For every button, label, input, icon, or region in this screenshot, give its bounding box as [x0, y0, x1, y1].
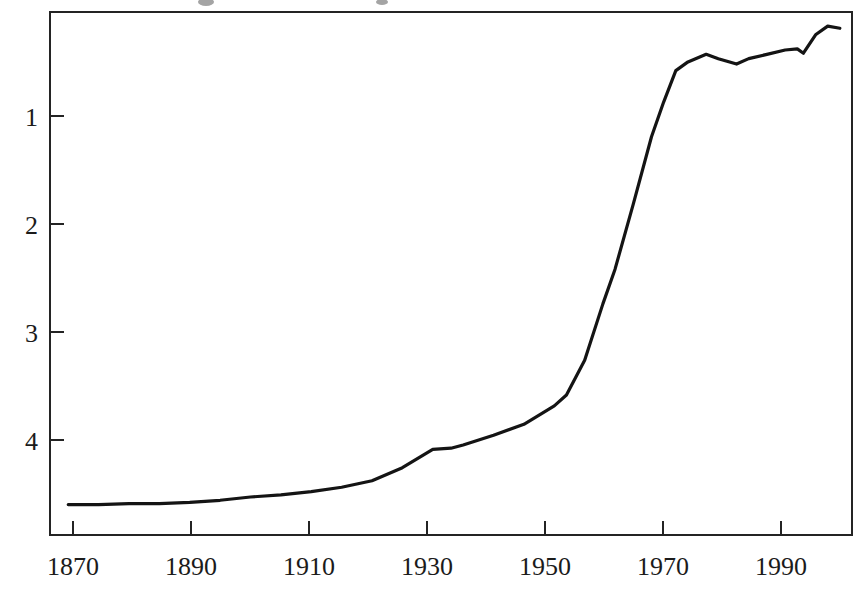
y-axis-tick-labels: 1 2 3 4 [25, 103, 38, 456]
plot-frame [50, 12, 852, 535]
cropped-text-fragment-top [198, 0, 388, 6]
x-tick-label: 1910 [283, 552, 335, 581]
x-tick-label: 1930 [401, 552, 453, 581]
y-tick-label: 2 [25, 211, 38, 240]
x-axis-tick-labels: 1870 1890 1910 1930 1950 1970 1990 [47, 552, 807, 581]
x-tick-label: 1950 [519, 552, 571, 581]
y-tick-label: 1 [25, 103, 38, 132]
line-chart: 1 2 3 4 1870 1890 1910 1930 1950 1970 19… [0, 0, 863, 592]
x-tick-label: 1870 [47, 552, 99, 581]
x-axis-ticks [73, 521, 781, 535]
data-line-series-1 [68, 26, 840, 505]
y-axis-ticks [50, 116, 64, 440]
x-tick-label: 1970 [637, 552, 689, 581]
x-tick-label: 1890 [165, 552, 217, 581]
chart-container: 1 2 3 4 1870 1890 1910 1930 1950 1970 19… [0, 0, 863, 592]
x-tick-label: 1990 [755, 552, 807, 581]
data-series-group [68, 26, 840, 505]
y-tick-label: 3 [25, 319, 38, 348]
y-tick-label: 4 [25, 427, 38, 456]
